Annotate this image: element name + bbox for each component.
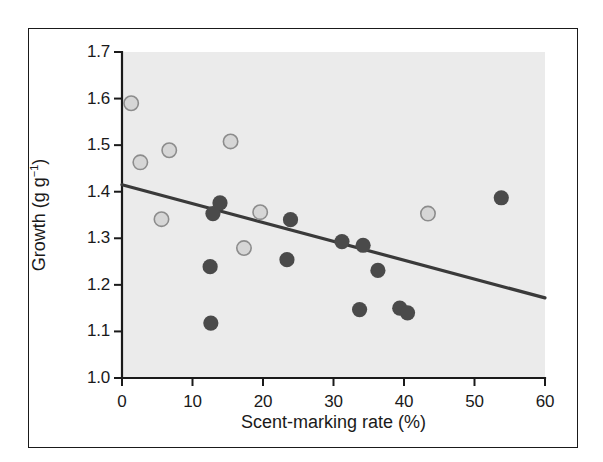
data-point-filled (203, 259, 218, 274)
data-point-open (421, 206, 435, 220)
y-axis-tick-label: 1.2 (52, 275, 110, 295)
trendline-group (122, 185, 545, 298)
y-axis-title-text: Growth (g g (29, 177, 49, 271)
y-axis-title-tail: ) (29, 159, 49, 165)
x-axis-tick-label: 20 (254, 392, 273, 412)
data-point-filled (203, 315, 218, 330)
data-point-open (124, 96, 138, 110)
data-point-open (154, 212, 168, 226)
y-axis-tick-label: 1.5 (52, 135, 110, 155)
y-axis-title-exponent: −1 (28, 165, 40, 178)
data-point-open (162, 143, 176, 157)
data-point-open (237, 241, 251, 255)
y-axis-tick-label: 1.6 (52, 89, 110, 109)
data-point-filled (212, 195, 227, 210)
data-point-filled (370, 263, 385, 278)
y-axis-tick-label: 1.7 (52, 42, 110, 62)
data-point-filled (494, 190, 509, 205)
data-points-group (124, 96, 509, 331)
y-axis-tick-label: 1.0 (52, 368, 110, 388)
data-point-open (223, 134, 237, 148)
data-point-filled (283, 212, 298, 227)
figure-root: 1.01.11.21.31.41.51.61.7 0102030405060 S… (0, 0, 603, 462)
data-point-open (253, 205, 267, 219)
data-point-filled (356, 238, 371, 253)
y-axis-tick-label: 1.1 (52, 321, 110, 341)
data-point-open (133, 155, 147, 169)
x-axis-tick-label: 10 (183, 392, 202, 412)
x-axis-tick-label: 0 (117, 392, 126, 412)
x-axis-tick-label: 50 (465, 392, 484, 412)
x-axis-tick-label: 30 (324, 392, 343, 412)
data-point-filled (334, 234, 349, 249)
x-axis-tick-label: 60 (536, 392, 555, 412)
y-axis-tick-label: 1.3 (52, 228, 110, 248)
x-axis-title: Scent-marking rate (%) (122, 412, 545, 433)
x-axis-tick-label: 40 (395, 392, 414, 412)
axes-group (114, 52, 545, 386)
y-axis-title: Growth (g g−1) (28, 159, 50, 272)
data-point-filled (279, 252, 294, 267)
data-point-filled (400, 305, 415, 320)
data-point-filled (352, 302, 367, 317)
y-axis-tick-label: 1.4 (52, 182, 110, 202)
regression-line (122, 185, 545, 298)
